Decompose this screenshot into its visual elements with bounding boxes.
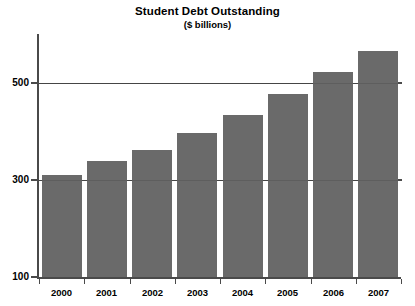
gridline-overlay-500: [39, 83, 401, 84]
bar-2001[interactable]: [87, 161, 127, 277]
x-tick-6: [311, 279, 312, 284]
bar-2007[interactable]: [358, 51, 398, 277]
x-axis-line: [37, 277, 401, 279]
y-tick-300: [31, 179, 39, 181]
x-tick-7: [356, 279, 357, 284]
gridline-overlay-300: [39, 180, 401, 181]
x-tick-4: [220, 279, 221, 284]
y-axis-label-300: 300: [0, 175, 29, 185]
plot-area: 1003005002000200120022003200420052006200…: [0, 0, 415, 306]
bar-2005[interactable]: [268, 94, 308, 277]
y-tick-100: [31, 276, 39, 278]
x-axis-label-2006: 2006: [311, 287, 356, 298]
x-axis-label-2005: 2005: [265, 287, 310, 298]
bar-2000[interactable]: [42, 175, 82, 277]
x-tick-3: [175, 279, 176, 284]
bar-2003[interactable]: [177, 133, 217, 277]
x-tick-2: [130, 279, 131, 284]
x-axis-label-2002: 2002: [130, 287, 175, 298]
bar-2004[interactable]: [223, 115, 263, 277]
y-tick-500: [31, 82, 39, 84]
y-axis-label-100: 100: [0, 272, 29, 282]
bar-2002[interactable]: [132, 150, 172, 277]
bar-2006[interactable]: [313, 72, 353, 277]
y-axis-label-500: 500: [0, 78, 29, 88]
x-tick-0: [39, 279, 40, 284]
x-tick-8: [401, 279, 402, 284]
x-axis-label-2001: 2001: [84, 287, 129, 298]
chart-figure: Student Debt Outstanding ($ billions) 10…: [0, 0, 415, 306]
y-axis-line: [37, 34, 39, 279]
x-axis-label-2007: 2007: [356, 287, 401, 298]
x-axis-label-2004: 2004: [220, 287, 265, 298]
x-axis-label-2000: 2000: [39, 287, 84, 298]
x-tick-1: [84, 279, 85, 284]
x-tick-5: [265, 279, 266, 284]
x-axis-label-2003: 2003: [175, 287, 220, 298]
